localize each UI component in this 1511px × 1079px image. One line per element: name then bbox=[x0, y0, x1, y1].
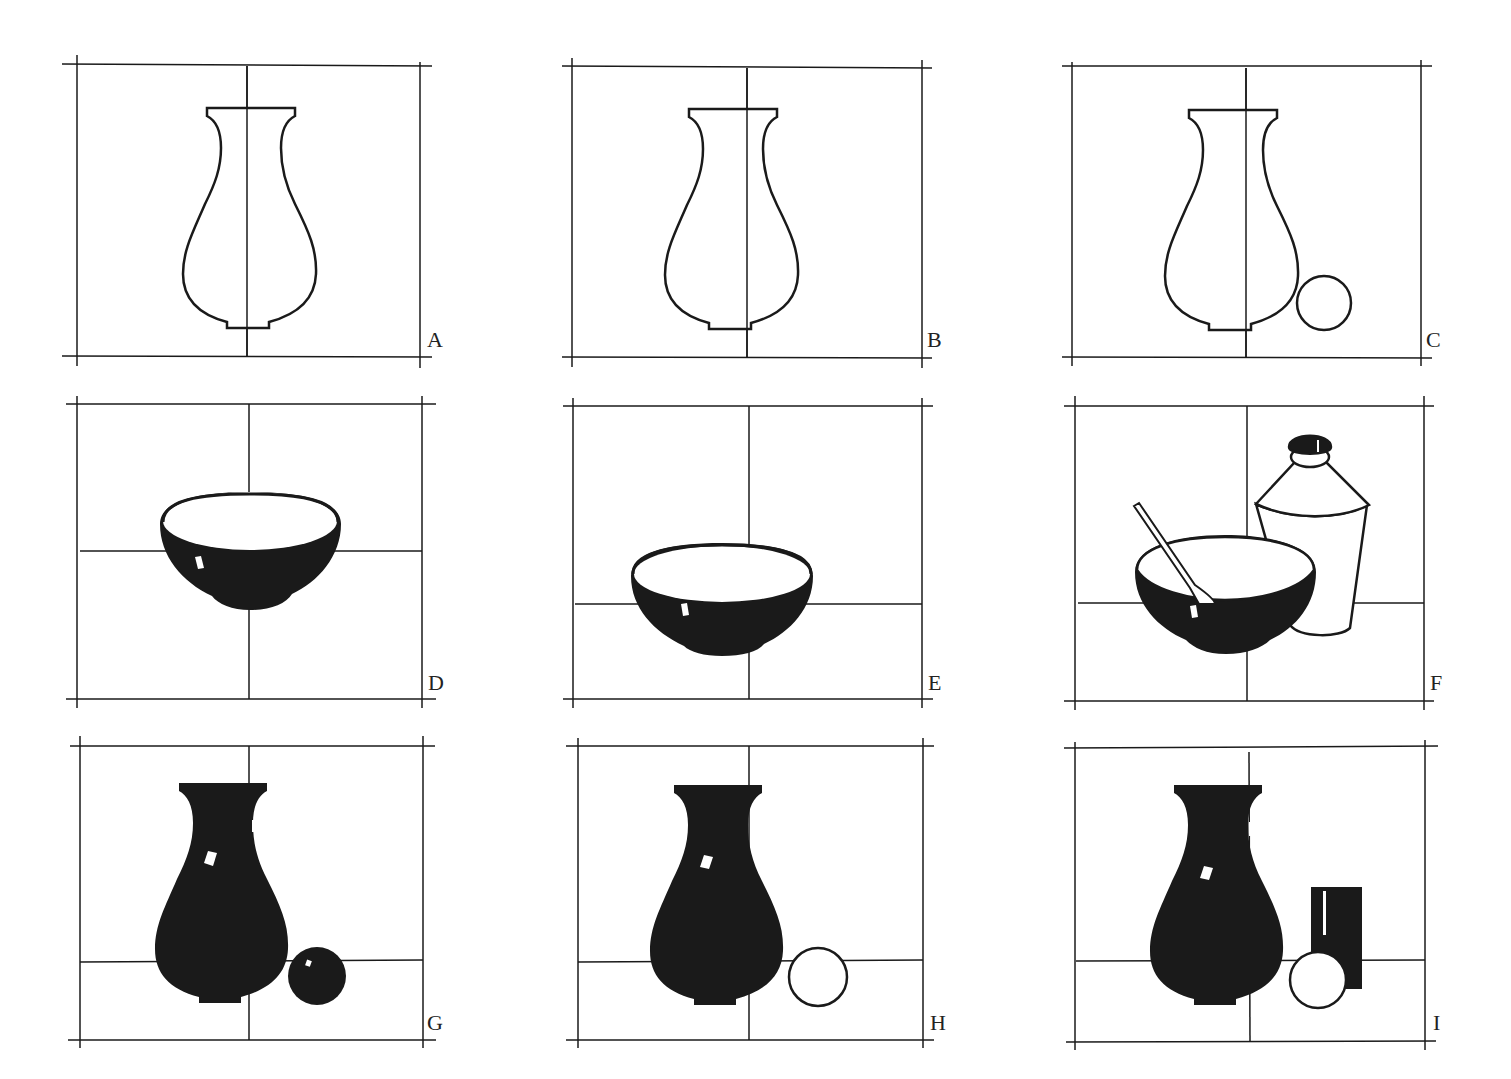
vase-outline-c bbox=[1165, 110, 1298, 330]
composition-grid bbox=[0, 0, 1511, 1079]
panel-label-c: C bbox=[1426, 327, 1441, 353]
bowl-e bbox=[631, 543, 813, 656]
panel-label-h: H bbox=[930, 1010, 946, 1036]
sphere-g bbox=[288, 947, 346, 1005]
vase-solid-h bbox=[650, 785, 783, 1005]
bowl-d bbox=[160, 492, 341, 610]
vase-outline-a bbox=[183, 108, 316, 328]
panel-label-i: I bbox=[1433, 1010, 1440, 1036]
bowl-f bbox=[1135, 535, 1316, 654]
panel-label-g: G bbox=[427, 1010, 443, 1036]
panel-label-d: D bbox=[428, 670, 444, 696]
circle-outline-h bbox=[789, 948, 847, 1006]
vase-solid-g bbox=[155, 783, 288, 1003]
panel-label-f: F bbox=[1430, 670, 1442, 696]
vase-outline-b bbox=[665, 109, 798, 329]
circle-outline-c bbox=[1297, 276, 1351, 330]
vase-solid-i bbox=[1150, 785, 1283, 1005]
panel-label-e: E bbox=[928, 670, 941, 696]
panel-label-b: B bbox=[927, 327, 942, 353]
circle-outline-i bbox=[1290, 952, 1346, 1008]
panel-label-a: A bbox=[427, 327, 443, 353]
